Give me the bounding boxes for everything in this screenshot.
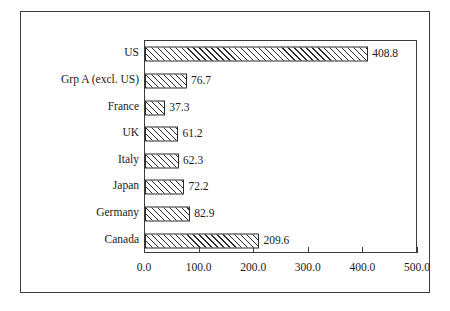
y-axis-category-labels: US Grp A (excl. US) France UK Italy Japa… — [21, 40, 139, 253]
bar-row-italy: 62.3 — [145, 148, 416, 175]
bar-row-us: 408.8 — [145, 41, 416, 68]
bar-row-france: 37.3 — [145, 94, 416, 121]
x-axis-tick — [199, 247, 200, 253]
y-axis-label-italy: Italy — [118, 154, 139, 166]
bar-germany[interactable] — [145, 207, 190, 222]
y-axis-label-france: France — [108, 101, 139, 113]
bar-row-grp-a-excl-us: 76.7 — [145, 68, 416, 95]
bar-grp-a-excl-us[interactable] — [145, 73, 187, 88]
bar-row-canada: 209.6 — [145, 227, 416, 254]
bar-value-uk: 61.2 — [182, 128, 202, 140]
bar-uk[interactable] — [145, 127, 178, 142]
bar-value-japan: 72.2 — [188, 182, 208, 194]
bar-row-uk: 61.2 — [145, 121, 416, 148]
figure-border: US Grp A (excl. US) France UK Italy Japa… — [20, 11, 430, 293]
y-axis-label-canada: Canada — [105, 234, 139, 246]
bar-canada[interactable] — [145, 233, 259, 248]
bar-row-germany: 82.9 — [145, 201, 416, 228]
x-axis-tick-label: 100.0 — [186, 262, 212, 274]
x-axis-tick — [308, 247, 309, 253]
bar-value-france: 37.3 — [169, 102, 189, 114]
x-axis-tick-label: 500.0 — [404, 262, 430, 274]
bar-value-germany: 82.9 — [194, 208, 214, 220]
bar-japan[interactable] — [145, 180, 184, 195]
category-row: UK — [21, 120, 139, 147]
x-axis-tick-label: 0.0 — [137, 262, 151, 274]
x-axis-tick-label: 400.0 — [349, 262, 375, 274]
category-row: Canada — [21, 226, 139, 253]
category-row: US — [21, 40, 139, 67]
bar-us[interactable] — [145, 47, 368, 62]
category-row: Germany — [21, 200, 139, 227]
bar-italy[interactable] — [145, 153, 179, 168]
category-row: Italy — [21, 147, 139, 174]
bar-value-canada: 209.6 — [263, 235, 289, 247]
y-axis-label-germany: Germany — [96, 207, 139, 219]
bar-value-us: 408.8 — [372, 49, 398, 61]
x-axis-tick — [253, 247, 254, 253]
y-axis-label-japan: Japan — [113, 181, 139, 193]
bar-value-grp-a-excl-us: 76.7 — [191, 75, 211, 87]
category-row: Grp A (excl. US) — [21, 67, 139, 94]
x-axis-tick — [417, 247, 418, 253]
x-axis-tick — [144, 247, 145, 253]
y-axis-label-us: US — [124, 48, 139, 60]
x-axis-tick-label: 200.0 — [240, 262, 266, 274]
bar-value-italy: 62.3 — [183, 155, 203, 167]
x-axis-tick-label: 300.0 — [295, 262, 321, 274]
x-axis-tick — [362, 247, 363, 253]
bar-row-japan: 72.2 — [145, 174, 416, 201]
x-axis: 0.0100.0200.0300.0400.0500.0 — [144, 253, 417, 293]
y-axis-label-uk: UK — [122, 127, 139, 139]
y-axis-label-grp-a-excl-us: Grp A (excl. US) — [61, 74, 139, 86]
category-row: France — [21, 93, 139, 120]
plot-area: 408.8 76.7 37.3 61.2 62.3 72.2 82.9 — [144, 40, 417, 253]
bar-france[interactable] — [145, 100, 165, 115]
category-row: Japan — [21, 173, 139, 200]
